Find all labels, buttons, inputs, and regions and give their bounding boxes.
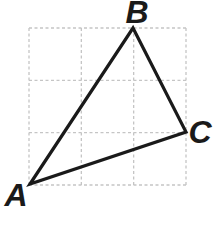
- vertex-label-a: A: [4, 179, 27, 211]
- vertex-label-b: B: [125, 0, 148, 28]
- triangle-diagram: A B C: [0, 0, 223, 230]
- vertex-label-c: C: [188, 116, 211, 148]
- triangle-abc: [30, 28, 186, 184]
